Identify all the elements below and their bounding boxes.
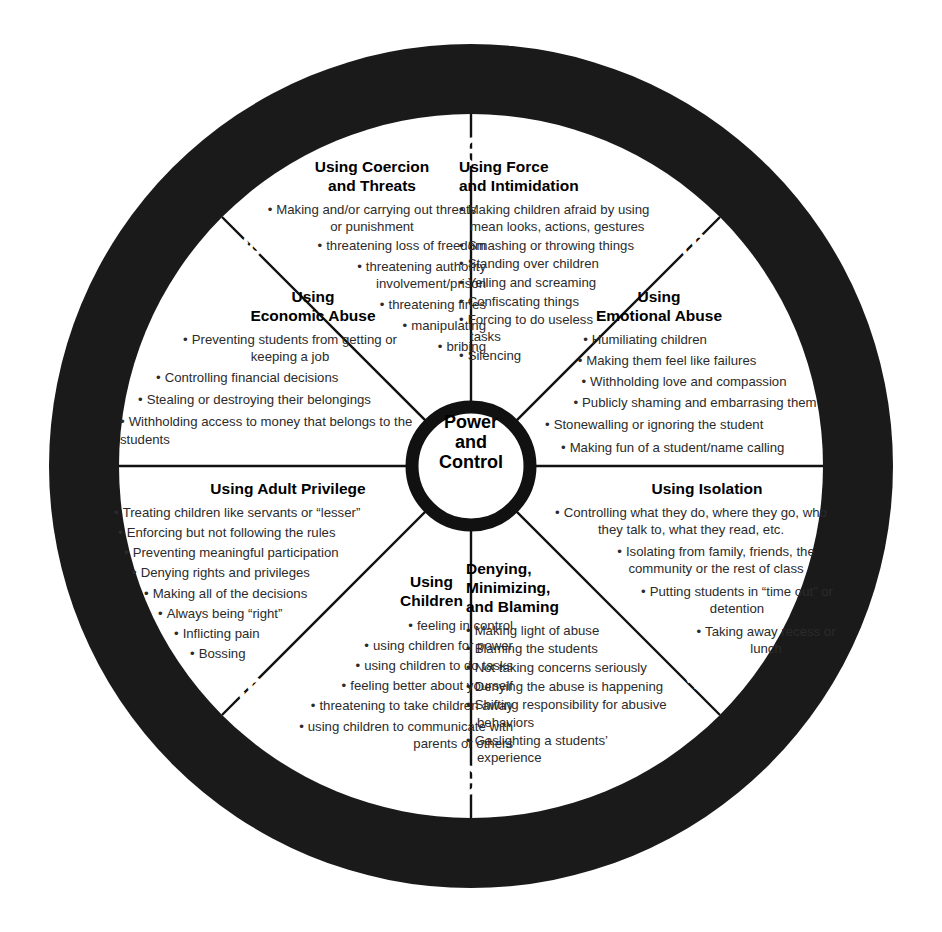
list-item: Controlling what they do, where they go,… (540, 504, 842, 538)
sector-denying-minimizing-and-blaming[interactable]: Denying, Minimizing, and Blaming Making … (466, 560, 674, 768)
sector-item-list: Humiliating children Making them feel li… (545, 331, 845, 456)
list-item: Making them feel like failures (545, 352, 845, 369)
list-item: Making children afraid by using mean loo… (459, 201, 673, 235)
sector-title: Using Emotional Abuse (545, 288, 845, 326)
list-item: Withholding access to money that belongs… (120, 413, 428, 447)
list-item: Shifting responsibility for abusive beha… (466, 696, 674, 730)
list-item: Preventing students from getting or keep… (120, 331, 428, 365)
sector-title: Denying, Minimizing, and Blaming (466, 560, 674, 617)
list-item: threatening authority involvement/prison (258, 258, 486, 292)
list-item: Stonewalling or ignoring the student (545, 416, 845, 433)
list-item: Blaming the students (466, 640, 674, 657)
list-item: Denying the abuse is happening (466, 678, 674, 695)
list-item: Making and/or carrying out threats or pu… (258, 201, 486, 235)
sector-title: Using Isolation (540, 480, 842, 499)
sector-item-list: Making light of abuse Blaming the studen… (466, 622, 674, 767)
list-item: Publicly shaming and embarrasing them (545, 394, 845, 411)
sector-title: Using Coercion and Threats (258, 158, 486, 196)
list-item: threatening loss of freedom (258, 237, 486, 254)
sector-title: Using Economic Abuse (120, 288, 428, 326)
list-item: Humiliating children (545, 331, 845, 348)
list-item: Preventing meaningful participation (114, 544, 434, 561)
hub-label: Power and Control (411, 412, 531, 472)
list-item: Standing over children (459, 255, 673, 272)
list-item: Treating children like servants or “less… (114, 504, 434, 521)
list-item: Withholding love and compassion (545, 373, 845, 390)
list-item: Controlling financial decisions (120, 369, 428, 386)
list-item: Not taking concerns seriously (466, 659, 674, 676)
list-item: Enforcing but not following the rules (114, 524, 434, 541)
hub-line-1: Power (411, 412, 531, 432)
list-item: Making fun of a student/name calling (545, 439, 845, 456)
list-item: Making light of abuse (466, 622, 674, 639)
hub-line-2: and (411, 432, 531, 452)
sector-title: Using Force and Intimidation (459, 158, 673, 196)
sector-item-list: Preventing students from getting or keep… (120, 331, 428, 448)
hub-line-3: Control (411, 452, 531, 472)
list-item: Stealing or destroying their belongings (120, 391, 428, 408)
sector-using-emotional-abuse[interactable]: Using Emotional Abuse Humiliating childr… (545, 288, 845, 457)
sector-using-economic-abuse[interactable]: Using Economic Abuse Preventing students… (120, 288, 428, 449)
list-item: Smashing or throwing things (459, 237, 673, 254)
sector-title: Using Adult Privilege (114, 480, 434, 499)
list-item: Gaslighting a students’ experience (466, 732, 674, 766)
power-and-control-wheel: Violence Physical Sexual Emotional Emoti… (0, 0, 942, 932)
